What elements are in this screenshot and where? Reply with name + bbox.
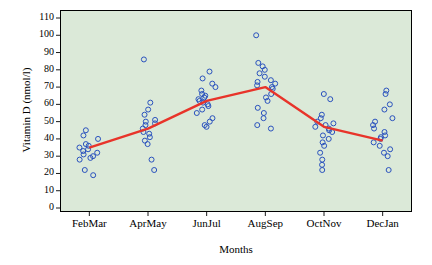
y-tick-label: 100 [24,28,54,39]
plot-area [60,10,412,212]
y-tick-label: 50 [24,115,54,126]
chart-figure: Vitamin D (nmol/l) Months 01020304050607… [0,0,432,265]
y-tick-label: 90 [24,46,54,57]
y-tick-label: 40 [24,132,54,143]
y-axis-title: Vitamin D (nmol/l) [20,10,32,210]
y-tick-label: 30 [24,149,54,160]
y-tick-label: 10 [24,184,54,195]
y-tick-label: 0 [24,201,54,212]
y-tick-label: 70 [24,80,54,91]
x-tick-label: DecJan [343,217,423,229]
y-tick-label: 20 [24,166,54,177]
y-tick-label: 80 [24,63,54,74]
y-tick-label: 110 [24,11,54,22]
y-tick-label: 60 [24,97,54,108]
x-axis-title: Months [60,243,412,255]
